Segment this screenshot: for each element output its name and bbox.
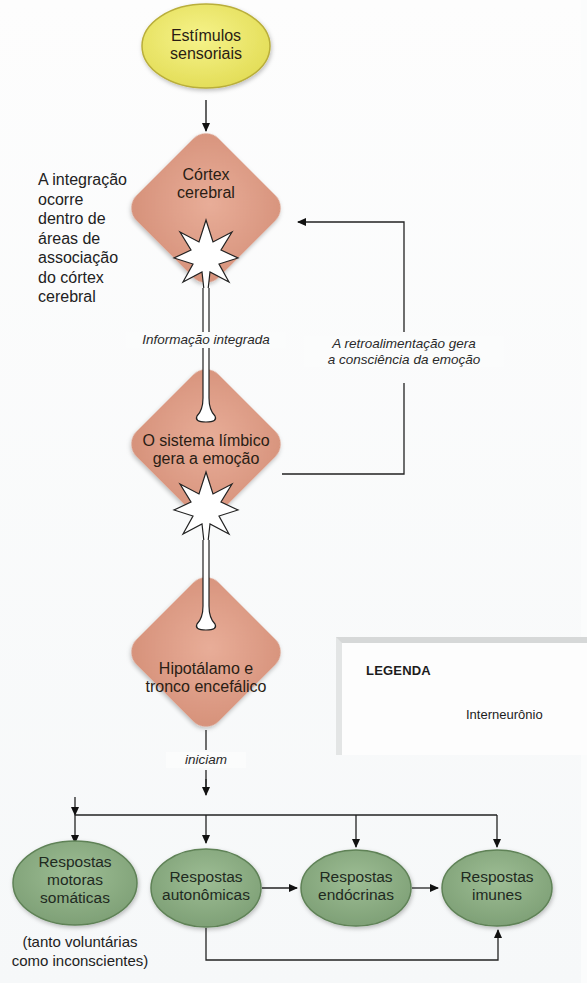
stimuli-label-line1: Estímulos [146, 27, 266, 45]
integration-note-line: A integração [38, 170, 127, 190]
somatic-label-line3: somáticas [15, 889, 135, 907]
somatic-note: (tanto voluntárias como inconscientes) [0, 932, 160, 970]
integration-note-line: ocorre [38, 190, 127, 210]
autonomic-label: Respostas autonômicas [146, 868, 266, 904]
autonomic-label-line1: Respostas [146, 868, 266, 886]
integration-note-line: áreas de [38, 229, 127, 249]
hypothalamus-label-line1: Hipotálamo e [126, 660, 286, 678]
somatic-label-line1: Respostas [15, 853, 135, 871]
limbic-label-line2: gera a emoção [126, 450, 286, 468]
hypothalamus-label: Hipotálamo e tronco encefálico [126, 660, 286, 697]
autonomic-label-line2: autonômicas [146, 886, 266, 904]
integration-note-line: associação [38, 248, 127, 268]
endocrine-label-line2: endócrinas [296, 886, 416, 904]
integration-note: A integração ocorre dentro de áreas de a… [38, 170, 127, 307]
stimuli-label: Estímulos sensoriais [146, 27, 266, 64]
legend: LEGENDA Interneurônio [336, 637, 587, 755]
limbic-label: O sistema límbico gera a emoção [126, 432, 286, 469]
endocrine-label: Respostas endócrinas [296, 868, 416, 904]
integrated-info-label: Informação integrada [126, 332, 286, 348]
cortex-label-line1: Córtex [146, 166, 266, 184]
somatic-note-line2: como inconscientes) [0, 951, 160, 970]
cortex-label-line2: cerebral [146, 184, 266, 202]
feedback-arrow [282, 383, 404, 474]
integration-note-line: do córtex [38, 268, 127, 288]
limbic-label-line1: O sistema límbico [126, 432, 286, 450]
legend-item-interneuron: Interneurônio [466, 707, 543, 722]
endocrine-label-line1: Respostas [296, 868, 416, 886]
somatic-note-line1: (tanto voluntárias [0, 932, 160, 951]
initiate-label: iniciam [166, 752, 246, 768]
integration-note-line: dentro de [38, 209, 127, 229]
legend-title: LEGENDA [366, 663, 431, 678]
integration-note-line: cerebral [38, 287, 127, 307]
immune-label-line1: Respostas [437, 868, 557, 886]
somatic-label-line2: motoras [15, 871, 135, 889]
feedback-label: A retroalimentação gera a consciência da… [304, 336, 504, 367]
immune-label-line2: imunes [437, 886, 557, 904]
feedback-label-line1: A retroalimentação gera [304, 336, 504, 352]
immune-label: Respostas imunes [437, 868, 557, 904]
somatic-label: Respostas motoras somáticas [15, 853, 135, 906]
hypothalamus-label-line2: tronco encefálico [126, 678, 286, 696]
stimuli-label-line2: sensoriais [146, 45, 266, 63]
feedback-label-line2: a consciência da emoção [304, 352, 504, 368]
cortex-label: Córtex cerebral [146, 166, 266, 203]
